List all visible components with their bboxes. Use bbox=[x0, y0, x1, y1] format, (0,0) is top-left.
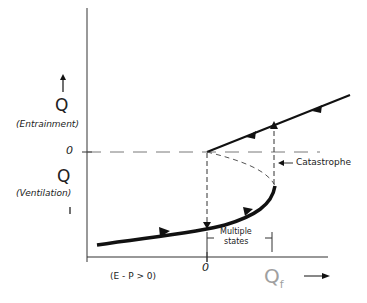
entrainment-branch bbox=[207, 95, 350, 152]
x-axis-symbol: Qf bbox=[264, 264, 284, 291]
y-lower-symbol: Q bbox=[57, 166, 70, 186]
catastrophe-label: Catastrophe bbox=[296, 157, 351, 167]
multiple-label: Multiple bbox=[220, 227, 252, 236]
diagram-canvas bbox=[0, 0, 367, 303]
arrow-left-icon bbox=[278, 160, 284, 166]
y-zero-label: 0 bbox=[66, 144, 73, 157]
x-axis-symbol-q: Q bbox=[264, 264, 280, 288]
y-upper-symbol: Q bbox=[55, 95, 68, 115]
up-arrow-icon bbox=[60, 74, 66, 80]
x-zero-label: 0 bbox=[202, 261, 209, 274]
condition-label: (E - P > 0) bbox=[110, 271, 156, 281]
x-axis-subscript: f bbox=[280, 278, 284, 291]
x-arrow-icon bbox=[322, 273, 330, 279]
y-upper-label: (Entrainment) bbox=[16, 119, 79, 129]
y-lower-label: (Ventilation) bbox=[16, 188, 71, 198]
unstable-branch bbox=[207, 152, 275, 186]
states-label: states bbox=[224, 237, 248, 246]
